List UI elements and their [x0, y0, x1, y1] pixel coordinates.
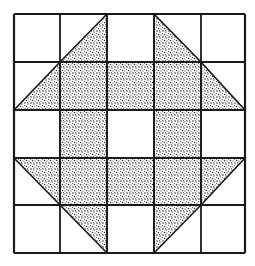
shaded-square [154, 62, 201, 110]
shaded-shapes [14, 14, 245, 253]
shaded-triangle [154, 205, 201, 253]
quilt-diagram [0, 0, 255, 266]
shaded-triangle [14, 158, 60, 205]
shaded-triangle [14, 62, 60, 110]
shaded-square [154, 158, 201, 205]
shaded-triangle [60, 14, 107, 62]
shaded-triangle [60, 205, 107, 253]
shaded-square [154, 110, 201, 158]
shaded-triangle [201, 62, 245, 110]
shaded-triangle [154, 14, 201, 62]
shaded-square [60, 62, 107, 110]
shaded-square [107, 158, 154, 205]
shaded-square [60, 158, 107, 205]
shaded-square [60, 110, 107, 158]
shaded-square [107, 62, 154, 110]
grid-lines [14, 14, 245, 253]
shaded-triangle [201, 158, 245, 205]
